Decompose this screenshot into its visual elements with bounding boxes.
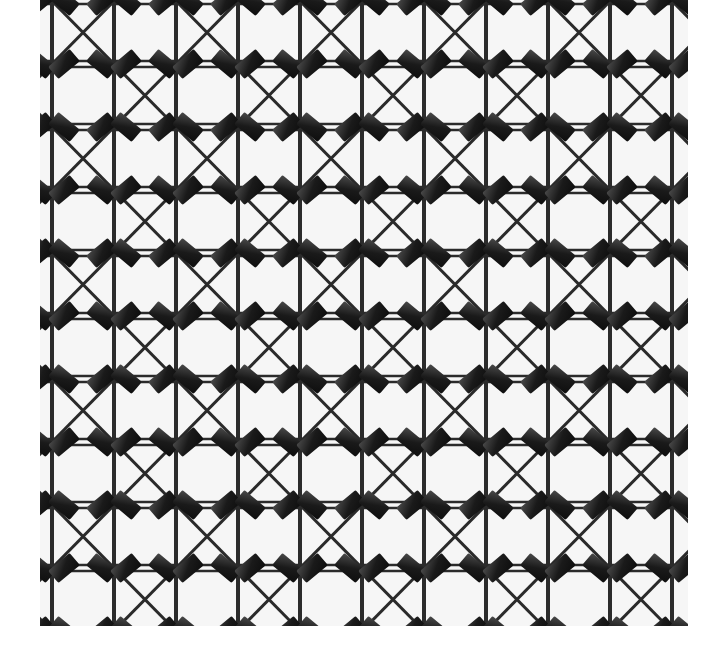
mesh-pattern	[40, 0, 688, 626]
mesh-illustration	[40, 0, 688, 626]
wire-mesh-photo	[40, 0, 688, 626]
